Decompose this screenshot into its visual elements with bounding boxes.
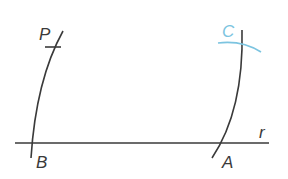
label-p: P — [39, 25, 51, 44]
arc-right — [212, 30, 242, 158]
label-b: B — [36, 153, 47, 172]
label-a: A — [221, 153, 233, 172]
arc-left — [31, 31, 63, 158]
arc-c — [218, 42, 261, 52]
construction-diagram: r P B A C — [0, 0, 288, 179]
label-c: C — [222, 22, 235, 41]
label-r: r — [259, 123, 266, 142]
